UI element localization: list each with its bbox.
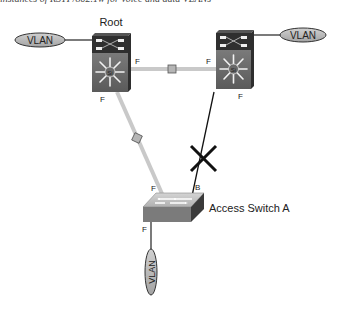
svg-text:Si: Si: [231, 67, 236, 73]
port-label-right-bottom: F: [238, 92, 243, 101]
access-switch-icon[interactable]: [143, 193, 204, 222]
vlan-bottom[interactable]: VLAN: [145, 249, 157, 295]
root-label: Root: [99, 16, 122, 28]
link-root-to-access: [117, 92, 163, 196]
port-label-access-right: B: [195, 183, 200, 192]
port-label-root-right: F: [135, 57, 140, 66]
port-label-root-bottom: F: [100, 95, 105, 104]
port-label-access-bottom: F: [142, 225, 147, 234]
port-label-right-left: F: [206, 57, 211, 66]
vlan-left[interactable]: VLAN: [15, 33, 65, 47]
root-switch-icon[interactable]: Si: [92, 33, 131, 92]
blocked-x-icon: [191, 146, 216, 171]
link-right-to-access-blocked: [191, 92, 216, 196]
link-marker-icon: [168, 65, 176, 73]
figure-caption: instances of RSTP/802.1w for voice and d…: [0, 0, 338, 5]
port-label-access-left: F: [151, 184, 156, 193]
stp-topology-diagram: instances of RSTP/802.1w for voice and d…: [0, 0, 338, 310]
access-switch-label: Access Switch A: [209, 202, 290, 214]
vlan-bottom-label: VLAN: [147, 260, 157, 284]
vlan-left-label: VLAN: [27, 35, 53, 46]
vlan-right[interactable]: VLAN: [280, 28, 326, 42]
link-root-to-right: [130, 65, 216, 73]
right-switch-icon[interactable]: Si: [216, 30, 254, 89]
svg-text:Si: Si: [107, 70, 112, 76]
vlan-right-label: VLAN: [290, 30, 316, 41]
